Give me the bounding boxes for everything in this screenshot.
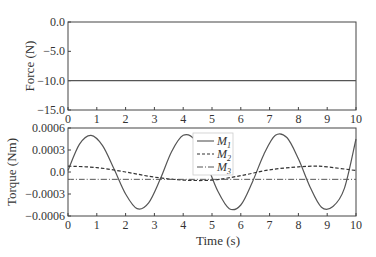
x-tick-label: 7 [267, 112, 273, 126]
x-tick-label: 6 [238, 218, 244, 232]
x-tick-label: 6 [238, 112, 244, 126]
time-x-label: Time (s) [196, 233, 240, 248]
x-tick-label: 3 [151, 218, 157, 232]
y-tick-label: −15.0 [37, 103, 65, 117]
x-tick-label: 0 [65, 218, 71, 232]
y-tick-label: 0.0 [50, 15, 65, 29]
chart-figure: 0.0−5.0−10.0−15.0 012345678910 Force (N)… [0, 0, 376, 257]
x-tick-label: 1 [94, 112, 100, 126]
x-tick-label: 9 [324, 218, 330, 232]
x-tick-label: 4 [180, 112, 186, 126]
force-panel: 0.0−5.0−10.0−15.0 012345678910 Force (N) [22, 15, 362, 126]
y-tick-label: −10.0 [37, 74, 65, 88]
x-tick-label: 9 [324, 112, 330, 126]
y-tick-label: −5.0 [43, 44, 65, 58]
x-tick-label: 2 [123, 218, 129, 232]
y-tick-label: −0.0003 [25, 187, 65, 201]
force-y-label: Force (N) [22, 41, 37, 92]
torque-y-ticks: 0.00060.00030.0−0.0003−0.0006 [25, 121, 71, 223]
x-tick-label: 5 [209, 218, 215, 232]
x-tick-label: 10 [350, 218, 362, 232]
x-tick-label: 4 [180, 218, 186, 232]
x-tick-label: 8 [295, 218, 301, 232]
torque-y-label: Torque (Nm) [4, 138, 19, 206]
x-tick-label: 1 [94, 218, 100, 232]
y-tick-label: 0.0 [50, 165, 65, 179]
y-tick-label: 0.0003 [32, 143, 65, 157]
x-tick-label: 2 [123, 112, 129, 126]
x-tick-label: 5 [209, 112, 215, 126]
x-tick-label: 7 [267, 218, 273, 232]
torque-panel: 0.00060.00030.0−0.0003−0.0006 0123456789… [4, 121, 362, 248]
force-plot-frame [68, 22, 356, 110]
legend: M1 M2 M3 [193, 133, 233, 176]
x-tick-label: 10 [350, 112, 362, 126]
y-tick-label: −0.0006 [25, 209, 65, 223]
x-tick-label: 8 [295, 112, 301, 126]
force-y-ticks: 0.0−5.0−10.0−15.0 [37, 15, 71, 117]
x-tick-label: 0 [65, 112, 71, 126]
x-tick-label: 3 [151, 112, 157, 126]
y-tick-label: 0.0006 [32, 121, 65, 135]
